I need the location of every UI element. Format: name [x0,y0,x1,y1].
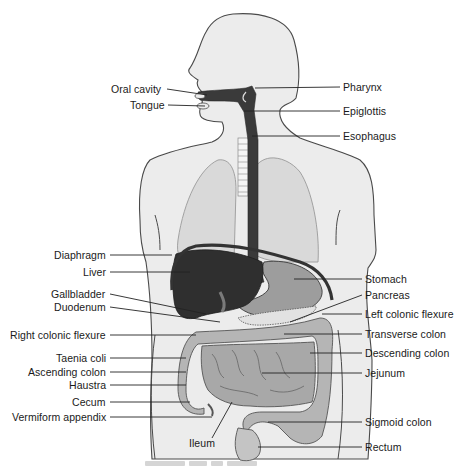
label-transverse-colon: Transverse colon [365,328,446,340]
label-epiglottis: Epiglottis [343,105,386,117]
label-ascending-colon: Ascending colon [28,366,106,378]
trachea [238,138,248,196]
label-ileum: Ileum [189,437,215,449]
label-rectum: Rectum [365,441,401,453]
label-oral-cavity: Oral cavity [111,83,161,95]
figure-caption-cropped [145,459,275,467]
label-esophagus: Esophagus [343,130,396,142]
label-tongue: Tongue [130,99,165,111]
label-stomach: Stomach [365,273,407,285]
label-duodenum: Duodenum [54,301,106,313]
label-cecum: Cecum [72,396,106,408]
label-taenia-coli: Taenia coli [56,352,106,364]
label-pancreas: Pancreas [365,289,410,301]
label-left-colonic-flexure: Left colonic flexure [365,308,454,320]
anatomy-illustration [0,0,464,469]
small-intestine [201,342,315,407]
label-diaphragm: Diaphragm [54,249,106,261]
label-right-colonic-flexure: Right colonic flexure [10,329,106,341]
digestive-system-diagram: Oral cavity Tongue Diaphragm Liver Gallb… [0,0,464,469]
label-pharynx: Pharynx [343,81,382,93]
label-descending-colon: Descending colon [365,347,449,359]
label-gallbladder: Gallbladder [51,288,105,300]
label-sigmoid-colon: Sigmoid colon [365,416,432,428]
label-liver: Liver [83,266,106,278]
label-vermiform-appendix: Vermiform appendix [12,411,106,423]
label-jejunum: Jejunum [365,367,405,379]
label-haustra: Haustra [69,379,106,391]
